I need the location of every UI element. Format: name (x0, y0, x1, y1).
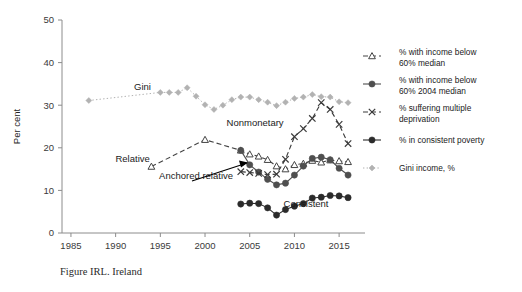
legend-label-line2: 60% 2004 median (399, 86, 466, 96)
marker-circle-filled-dark (273, 212, 279, 218)
legend-item-2[interactable]: % suffering multipledeprivation (363, 103, 472, 124)
marker-x (345, 140, 351, 146)
y-tick-label: 40 (43, 57, 54, 68)
marker-x (318, 99, 324, 105)
figure-caption: Figure IRL. Ireland (60, 266, 143, 277)
axes-group: 010203040501985199019952000200520102015P… (11, 14, 365, 251)
marker-diamond-filled (175, 89, 181, 95)
marker-diamond-filled (238, 94, 244, 100)
marker-diamond-filled (220, 102, 226, 108)
marker-circle-filled (300, 163, 306, 169)
marker-diamond-filled (184, 85, 190, 91)
x-tick-label: 1990 (105, 240, 126, 251)
marker-triangle-open (336, 158, 343, 164)
marker-circle-filled-dark (238, 201, 244, 207)
legend-label-line1: Gini income, % (399, 163, 455, 173)
marker-circle-filled-dark (336, 193, 342, 199)
marker-diamond-filled (229, 97, 235, 103)
marker-diamond-filled (157, 89, 163, 95)
caption-group: Figure IRL. Ireland (60, 266, 143, 277)
marker-circle-filled (318, 154, 324, 160)
marker-circle-filled (327, 157, 333, 163)
marker-x (282, 156, 288, 162)
chart-canvas: 010203040501985199019952000200520102015P… (0, 0, 522, 292)
marker-circle-filled (282, 180, 288, 186)
series-annotation-4: Consistent (284, 198, 329, 209)
y-tick-label: 20 (43, 142, 54, 153)
marker-triangle-open (202, 136, 209, 142)
marker-x (336, 121, 342, 127)
y-tick-label: 50 (43, 14, 54, 25)
x-tick-label: 2000 (194, 240, 215, 251)
marker-x (300, 125, 306, 131)
marker-triangle-open (273, 163, 280, 169)
legend-item-3[interactable]: % in consistent poverty (363, 135, 485, 145)
x-tick-label: 2015 (329, 240, 350, 251)
marker-circle-filled-dark (256, 201, 262, 207)
marker-x (327, 106, 333, 112)
legend-item-4[interactable]: Gini income, % (363, 163, 455, 173)
marker-diamond-filled (256, 97, 262, 103)
marker-diamond-filled (291, 95, 297, 101)
marker-circle-filled-dark (345, 195, 351, 201)
legend-label-line2: 60% median (399, 58, 446, 68)
marker-diamond-filled (309, 92, 315, 98)
marker-diamond-filled (300, 94, 306, 100)
legend-item-1[interactable]: % with income below60% 2004 median (363, 75, 477, 96)
series-annotation-0: Gini (134, 81, 151, 92)
marker-circle-filled (238, 147, 244, 153)
legend-label-line1: % in consistent poverty (399, 135, 485, 145)
legend-label-line1: % with income below (399, 75, 477, 85)
marker-diamond-filled (336, 99, 342, 105)
marker-diamond-filled (327, 94, 333, 100)
marker-diamond-filled (274, 103, 280, 109)
marker-diamond-filled (318, 94, 324, 100)
y-tick-label: 30 (43, 100, 54, 111)
marker-circle-filled-dark (369, 137, 375, 143)
marker-circle-filled (336, 165, 342, 171)
marker-diamond-filled (166, 89, 172, 95)
marker-triangle-open (246, 151, 253, 157)
series-line (89, 88, 348, 110)
marker-triangle-open (282, 166, 289, 172)
marker-circle-filled-dark (247, 200, 253, 206)
legend-label-line2: deprivation (399, 114, 440, 124)
marker-diamond-filled (345, 100, 351, 106)
legend-label-line1: % with income below (399, 47, 477, 57)
marker-x (309, 115, 315, 121)
marker-diamond-filled (202, 102, 208, 108)
marker-x (291, 134, 297, 140)
marker-diamond-filled (86, 98, 92, 104)
figure-container: 010203040501985199019952000200520102015P… (0, 0, 522, 292)
y-axis-title: Per cent (11, 108, 22, 144)
legend-label-line1: % suffering multiple (399, 103, 472, 113)
marker-diamond-filled (247, 94, 253, 100)
y-tick-label: 0 (49, 227, 54, 238)
marker-diamond-filled (282, 99, 288, 105)
annotation-group: GiniNonmonetaryRelativeAnchored relative… (115, 81, 328, 210)
marker-diamond-filled (211, 106, 217, 112)
marker-circle-filled (291, 172, 297, 178)
marker-circle-filled (309, 155, 315, 161)
marker-triangle-open (291, 161, 298, 167)
y-tick-label: 10 (43, 185, 54, 196)
marker-circle-filled (256, 169, 262, 175)
marker-diamond-filled (265, 99, 271, 105)
x-tick-label: 2010 (284, 240, 305, 251)
series-4 (86, 85, 351, 113)
marker-circle-filled (369, 81, 375, 87)
series-annotation-2: Relative (115, 153, 149, 164)
marker-circle-filled (345, 172, 351, 178)
series-annotation-1: Nonmonetary (227, 117, 284, 128)
legend-item-0[interactable]: % with income below60% median (363, 47, 477, 68)
marker-circle-filled-dark (265, 205, 271, 211)
marker-diamond-filled (369, 165, 375, 171)
x-tick-label: 1995 (150, 240, 171, 251)
marker-circle-filled (273, 182, 279, 188)
x-tick-label: 2005 (239, 240, 260, 251)
legend-group: % with income below60% median% with inco… (363, 47, 485, 174)
x-tick-label: 1985 (60, 240, 81, 251)
